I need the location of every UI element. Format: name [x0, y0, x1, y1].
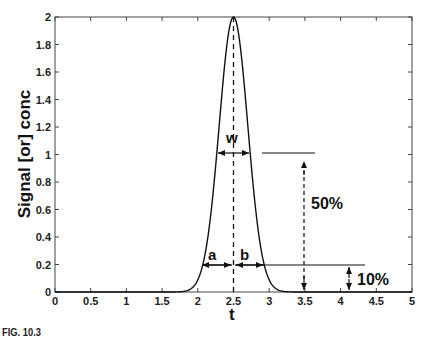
- y-tick-label: 2: [45, 11, 51, 23]
- y-tick-label: 1: [45, 149, 51, 161]
- figure-caption: FIG. 10.3: [2, 326, 41, 338]
- x-tick-label: 5: [409, 295, 415, 307]
- label-10pct: 10%: [357, 271, 389, 288]
- y-axis-label: Signal [or] conc: [15, 90, 34, 218]
- label-a: a: [208, 246, 217, 263]
- y-tick-label: 0.6: [36, 204, 51, 216]
- y-tick-label: 0.4: [36, 231, 52, 243]
- chart: 00.511.522.533.544.55 00.20.40.60.811.21…: [0, 0, 424, 342]
- y-axis-ticks: 00.20.40.60.811.21.41.61.82: [36, 11, 412, 298]
- label-w: w: [225, 129, 238, 146]
- y-tick-label: 0.2: [36, 259, 51, 271]
- y-tick-label: 0.8: [36, 176, 51, 188]
- x-tick-label: 0.5: [83, 295, 98, 307]
- x-axis-label: t: [229, 305, 235, 324]
- x-tick-label: 4.5: [369, 295, 384, 307]
- y-tick-label: 1.6: [36, 66, 51, 78]
- x-tick-label: 4: [338, 295, 345, 307]
- y-tick-label: 0: [45, 286, 51, 298]
- label-50pct: 50%: [311, 195, 343, 212]
- y-tick-label: 1.4: [36, 94, 52, 106]
- x-tick-label: 2: [195, 295, 201, 307]
- x-tick-label: 1: [123, 295, 129, 307]
- label-b: b: [240, 246, 249, 263]
- x-tick-label: 0: [52, 295, 58, 307]
- x-tick-label: 1.5: [154, 295, 169, 307]
- x-tick-label: 3.5: [297, 295, 312, 307]
- y-tick-label: 1.2: [36, 121, 51, 133]
- y-tick-label: 1.8: [36, 39, 51, 51]
- x-tick-label: 3: [266, 295, 272, 307]
